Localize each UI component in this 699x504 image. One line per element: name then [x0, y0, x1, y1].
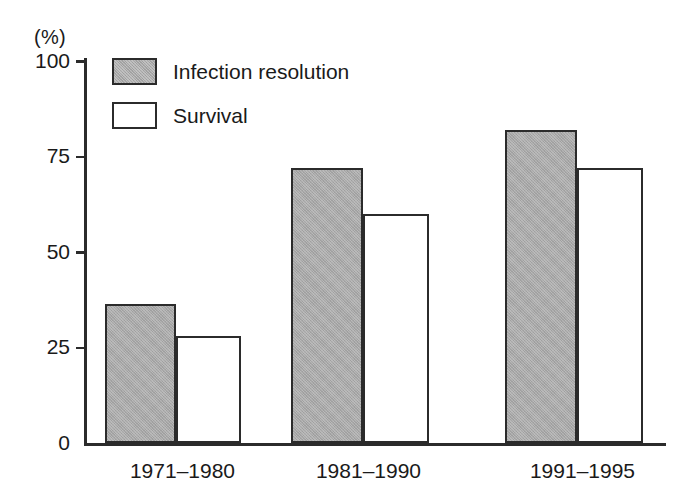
bar-infection-resolution-1971-1980	[105, 304, 176, 443]
legend-swatch-filled-gray-icon	[112, 58, 157, 85]
y-tick-50	[76, 251, 86, 254]
legend-item-infection-resolution: Infection resolution	[112, 57, 349, 85]
chart-legend: Infection resolution Survival	[112, 57, 349, 145]
x-tick-label-1971-1980: 1971–1980	[105, 459, 260, 483]
y-tick-label-75: 75	[47, 145, 70, 166]
y-tick-label-25: 25	[47, 336, 70, 357]
bar-survival-1981-1990	[363, 214, 429, 443]
legend-swatch-hollow-white-icon	[112, 102, 157, 129]
y-tick-75	[76, 156, 86, 159]
y-tick-100	[76, 60, 86, 63]
bar-survival-1971-1980	[176, 336, 241, 443]
y-tick-label-50: 50	[47, 241, 70, 262]
y-tick-label-0: 0	[58, 432, 70, 453]
legend-label-infection-resolution: Infection resolution	[173, 61, 349, 82]
legend-label-survival: Survival	[173, 105, 248, 126]
bar-chart: (%) 100 75 50 25 0 1971–1980 1981–1990 1…	[0, 0, 699, 504]
x-tick-label-1981-1990: 1981–1990	[291, 459, 446, 483]
bar-infection-resolution-1991-1995	[505, 130, 577, 443]
bar-infection-resolution-1981-1990	[291, 168, 363, 443]
bar-survival-1991-1995	[577, 168, 643, 443]
y-tick-label-100: 100	[35, 50, 70, 71]
y-tick-25	[76, 347, 86, 350]
x-tick-label-1991-1995: 1991–1995	[505, 459, 660, 483]
legend-item-survival: Survival	[112, 101, 349, 129]
x-axis-line	[84, 443, 666, 446]
y-axis-unit-label: (%)	[34, 26, 66, 49]
